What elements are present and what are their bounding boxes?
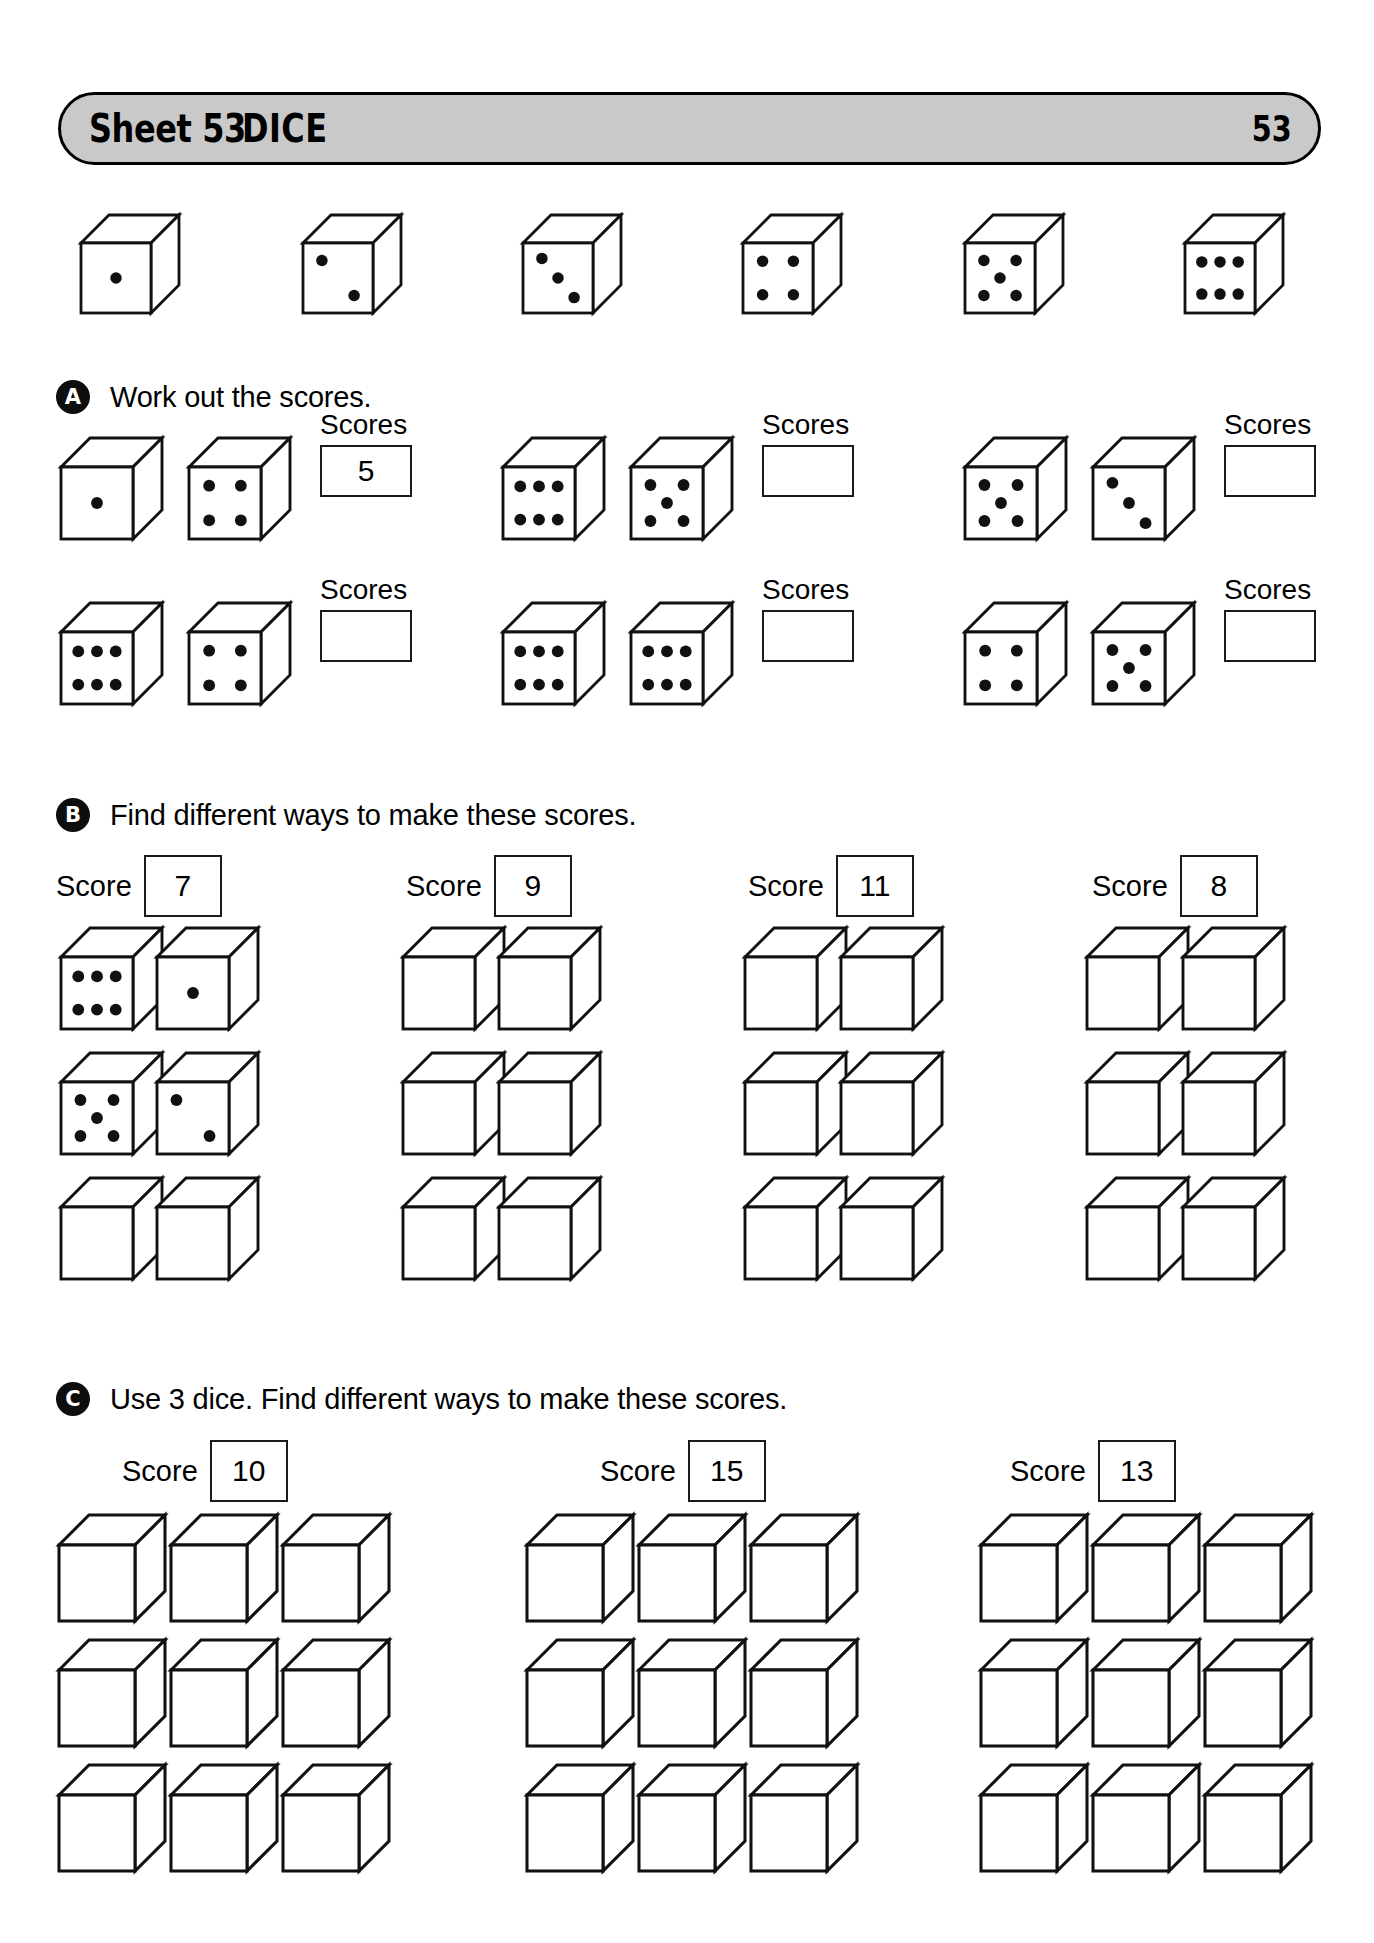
section-c-die[interactable] [56, 1762, 168, 1874]
section-c-die[interactable] [636, 1762, 748, 1874]
section-b-die[interactable] [496, 925, 603, 1032]
section-b-die[interactable] [742, 1050, 849, 1157]
section-c-die[interactable] [280, 1762, 392, 1874]
section-b-die[interactable] [58, 1175, 165, 1282]
scores-answer-box[interactable] [320, 610, 412, 662]
die-key-5[interactable] [962, 212, 1066, 316]
section-a-die[interactable] [628, 435, 735, 542]
section-c-die[interactable] [168, 1512, 280, 1624]
section-c-die[interactable] [524, 1762, 636, 1874]
section-a-die[interactable] [186, 600, 293, 707]
section-a-scores-group: Scores [320, 576, 412, 662]
section-a-die[interactable] [500, 435, 607, 542]
sheet-header-bar: Sheet 53 DICE 53 [58, 92, 1321, 165]
section-c-die[interactable] [1090, 1762, 1202, 1874]
scores-answer-box[interactable] [1224, 445, 1316, 497]
section-b-die[interactable] [154, 925, 261, 1032]
section-b-marker: B [56, 798, 90, 832]
section-b-die[interactable] [154, 1175, 261, 1282]
section-b-die[interactable] [742, 925, 849, 1032]
scores-answer-box[interactable] [762, 610, 854, 662]
section-c-die[interactable] [636, 1512, 748, 1624]
section-a-scores-group: Scores5 [320, 411, 412, 497]
section-b-die[interactable] [496, 1050, 603, 1157]
section-b-heading: B Find different ways to make these scor… [56, 798, 636, 832]
die-slot [1180, 1050, 1287, 1161]
section-b-die[interactable] [838, 925, 945, 1032]
score-value-box[interactable]: 10 [210, 1440, 288, 1502]
die-key-1[interactable] [78, 212, 182, 316]
die-slot [1182, 212, 1286, 320]
die-slot [1202, 1637, 1314, 1753]
die-slot [58, 600, 165, 711]
scores-answer-box[interactable] [762, 445, 854, 497]
section-c-die[interactable] [636, 1637, 748, 1749]
section-b-die[interactable] [400, 1050, 507, 1157]
section-c-die[interactable] [1202, 1762, 1314, 1874]
section-b-die[interactable] [1180, 925, 1287, 1032]
section-c-die[interactable] [280, 1637, 392, 1749]
section-c-die[interactable] [978, 1762, 1090, 1874]
score-value-box[interactable]: 8 [1180, 855, 1258, 917]
die-key-2[interactable] [300, 212, 404, 316]
score-value-box[interactable]: 7 [144, 855, 222, 917]
section-c-die[interactable] [56, 1637, 168, 1749]
scores-label: Scores [1224, 576, 1316, 604]
section-b-die[interactable] [1084, 1050, 1191, 1157]
section-b-die[interactable] [1180, 1175, 1287, 1282]
score-value-box[interactable]: 15 [688, 1440, 766, 1502]
die-slot [280, 1512, 392, 1628]
score-value-box[interactable]: 11 [836, 855, 914, 917]
section-c-die[interactable] [748, 1637, 860, 1749]
die-slot [1084, 925, 1191, 1036]
die-key-6[interactable] [1182, 212, 1286, 316]
die-slot [742, 1050, 849, 1161]
section-c-die[interactable] [1090, 1512, 1202, 1624]
section-a-die[interactable] [1090, 435, 1197, 542]
section-c-die[interactable] [748, 1512, 860, 1624]
section-c-die[interactable] [978, 1637, 1090, 1749]
section-a-die[interactable] [628, 600, 735, 707]
section-c-die[interactable] [1090, 1637, 1202, 1749]
section-b-die[interactable] [1180, 1050, 1287, 1157]
score-value-box[interactable]: 9 [494, 855, 572, 917]
section-b-score-field: Score9 [406, 855, 572, 917]
section-c-die[interactable] [1202, 1512, 1314, 1624]
section-c-die[interactable] [280, 1512, 392, 1624]
section-a-die[interactable] [186, 435, 293, 542]
section-a-die[interactable] [962, 600, 1069, 707]
die-slot [838, 1050, 945, 1161]
section-c-die[interactable] [524, 1512, 636, 1624]
section-c-die[interactable] [168, 1762, 280, 1874]
section-b-die[interactable] [496, 1175, 603, 1282]
section-c-die[interactable] [978, 1512, 1090, 1624]
section-a-die[interactable] [1090, 600, 1197, 707]
section-c-die[interactable] [748, 1762, 860, 1874]
die-slot [740, 212, 844, 320]
score-value-box[interactable]: 13 [1098, 1440, 1176, 1502]
section-b-die[interactable] [838, 1175, 945, 1282]
section-b-die[interactable] [154, 1050, 261, 1157]
section-c-die[interactable] [1202, 1637, 1314, 1749]
section-b-die[interactable] [400, 925, 507, 1032]
section-a-marker: A [56, 380, 90, 414]
die-key-4[interactable] [740, 212, 844, 316]
section-a-die[interactable] [58, 600, 165, 707]
scores-answer-box[interactable]: 5 [320, 445, 412, 497]
section-b-die[interactable] [400, 1175, 507, 1282]
section-b-die[interactable] [58, 1050, 165, 1157]
section-c-die[interactable] [168, 1637, 280, 1749]
section-a-die[interactable] [500, 600, 607, 707]
section-b-die[interactable] [1084, 925, 1191, 1032]
section-a-die[interactable] [962, 435, 1069, 542]
section-b-die[interactable] [58, 925, 165, 1032]
section-b-die[interactable] [1084, 1175, 1191, 1282]
scores-answer-box[interactable] [1224, 610, 1316, 662]
section-c-die[interactable] [524, 1637, 636, 1749]
section-b-die[interactable] [742, 1175, 849, 1282]
scores-label: Scores [320, 411, 412, 439]
section-a-die[interactable] [58, 435, 165, 542]
die-key-3[interactable] [520, 212, 624, 316]
section-c-die[interactable] [56, 1512, 168, 1624]
section-b-die[interactable] [838, 1050, 945, 1157]
